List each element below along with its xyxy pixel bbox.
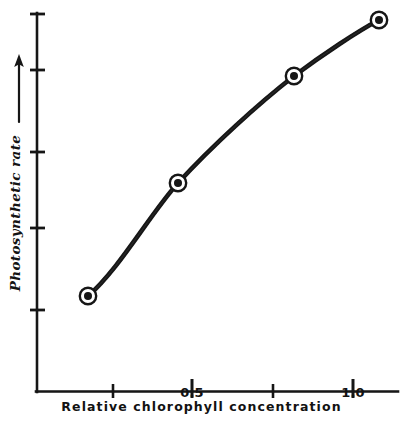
data-point-marker (80, 288, 96, 304)
x-tick-label-1-0: 1.0 (341, 385, 365, 400)
chart-figure: Photosynthetic rate 0.5 1.0 Relative chl… (0, 0, 403, 423)
x-axis-ticks (113, 379, 353, 398)
series-path-highlight (88, 20, 379, 296)
y-axis-title: Photosynthetic rate (7, 135, 23, 292)
x-tick-label-0-5: 0.5 (180, 385, 204, 400)
chart-canvas (0, 0, 403, 423)
data-series-line (88, 20, 379, 296)
data-point-marker (371, 12, 387, 28)
x-axis-title: Relative chlorophyll concentration (0, 399, 403, 414)
up-arrow-icon (14, 54, 24, 122)
axis-lines (36, 13, 398, 392)
series-path (88, 20, 379, 296)
data-point-marker (170, 175, 186, 191)
y-axis-title-wrap: Photosynthetic rate (0, 118, 30, 308)
data-point-markers (80, 12, 387, 304)
data-point-marker (286, 68, 302, 84)
